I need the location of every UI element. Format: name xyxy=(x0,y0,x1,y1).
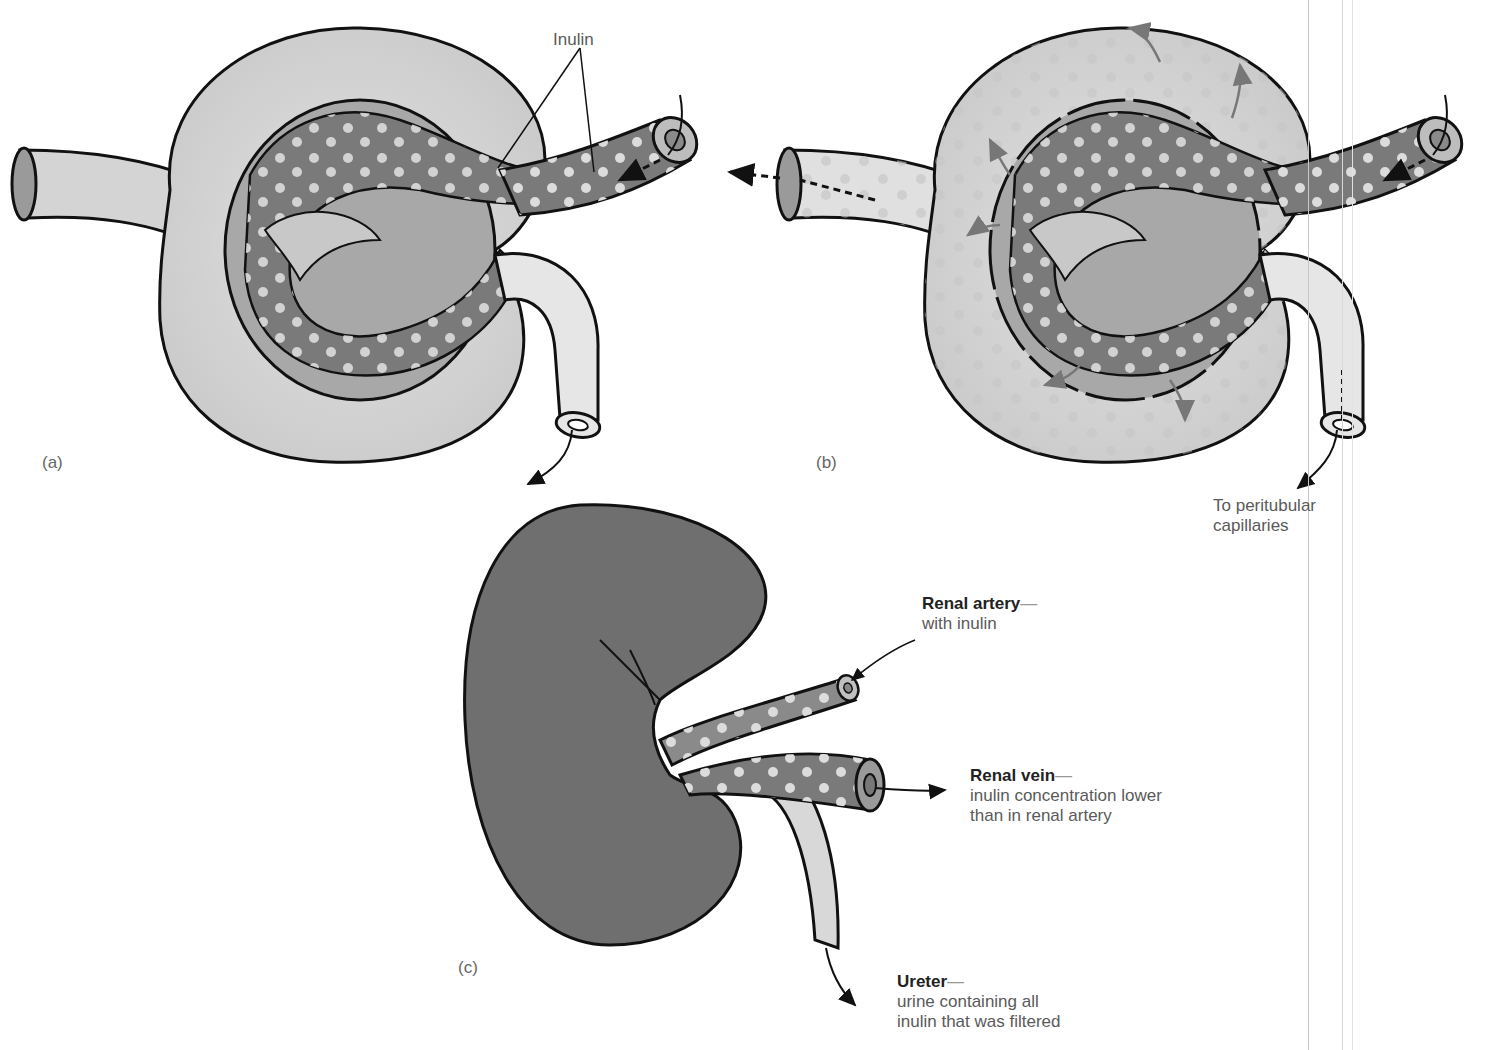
inulin-label: Inulin xyxy=(553,30,594,50)
guide-line xyxy=(1352,0,1353,1050)
panel-label-c: (c) xyxy=(458,958,478,978)
renal-vein-dash: — xyxy=(1055,766,1072,785)
glomerulus-panel-b xyxy=(730,28,1471,488)
ureter-label: Ureter— urine containing all inulin that… xyxy=(897,972,1060,1032)
ureter-desc2: inulin that was filtered xyxy=(897,1012,1060,1032)
panel-label-b: (b) xyxy=(816,453,837,473)
ureter-title: Ureter xyxy=(897,972,947,991)
renal-vein-label: Renal vein— inulin concentration lower t… xyxy=(970,766,1162,826)
renal-vein-desc1: inulin concentration lower xyxy=(970,786,1162,806)
peritubular-line1: To peritubular xyxy=(1213,496,1316,516)
peritubular-label: To peritubular capillaries xyxy=(1213,496,1316,536)
panel-label-a: (a) xyxy=(42,453,63,473)
renal-artery-label: Renal artery— with inulin xyxy=(922,594,1037,634)
ureter-dash: — xyxy=(947,972,964,991)
renal-artery-dash: — xyxy=(1020,594,1037,613)
renal-artery-title: Renal artery xyxy=(922,594,1020,613)
kidney-panel-c xyxy=(465,505,945,1005)
renal-vein-desc2: than in renal artery xyxy=(970,806,1162,826)
glomerulus-panel-a xyxy=(12,28,706,484)
renal-vein-title: Renal vein xyxy=(970,766,1055,785)
guide-line xyxy=(1342,0,1343,1050)
renal-artery-desc: with inulin xyxy=(922,614,1037,634)
peritubular-line2: capillaries xyxy=(1213,516,1316,536)
ureter-desc1: urine containing all xyxy=(897,992,1060,1012)
